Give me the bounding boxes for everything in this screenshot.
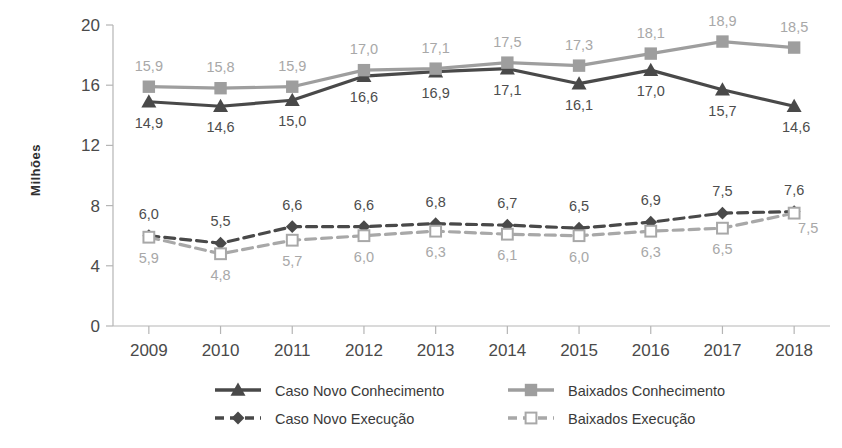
series-marker	[573, 59, 585, 71]
data-label: 18,5	[780, 19, 808, 35]
data-labels-series-3: 6,05,56,66,66,86,76,56,97,57,6	[139, 182, 804, 230]
x-axis-tick-label: 2017	[704, 341, 742, 360]
data-label: 7,5	[798, 220, 818, 236]
data-label: 14,6	[782, 119, 810, 135]
series-marker	[429, 62, 441, 74]
data-label: 18,9	[708, 13, 736, 29]
data-label: 6,0	[354, 249, 374, 265]
series-marker	[789, 208, 800, 219]
series-line	[149, 212, 794, 244]
series-marker	[645, 226, 656, 237]
data-label: 6,1	[497, 247, 517, 263]
data-label: 5,5	[210, 213, 230, 229]
data-label: 5,7	[282, 253, 302, 269]
series-marker	[358, 64, 370, 76]
data-label: 17,5	[493, 34, 521, 50]
legend-label: Caso Novo Conhecimento	[275, 383, 444, 399]
data-label: 5,9	[139, 250, 159, 266]
series-marker	[643, 63, 658, 76]
data-label: 17,1	[422, 40, 450, 56]
series-marker	[215, 248, 226, 259]
series-marker	[287, 235, 298, 246]
legend-marker	[232, 412, 245, 425]
data-label: 15,9	[135, 58, 163, 74]
x-axis-tick-labels: 2009201020112012201320142015201620172018	[130, 341, 813, 360]
legend-marker	[525, 384, 537, 396]
data-label: 17,0	[637, 83, 665, 99]
legend-item[interactable]: Baixados Execução	[508, 411, 695, 427]
data-label: 6,6	[354, 197, 374, 213]
data-label: 16,1	[565, 97, 593, 113]
y-axis-tick-label: 8	[91, 197, 100, 216]
data-label: 15,9	[278, 58, 306, 74]
data-label: 15,0	[278, 113, 306, 129]
x-axis-tick-label: 2009	[130, 341, 168, 360]
data-label: 17,1	[493, 82, 521, 98]
y-axis-ticks	[106, 25, 113, 326]
series-marker	[788, 41, 800, 53]
series-marker	[717, 223, 728, 234]
series-marker	[359, 230, 370, 241]
data-label: 7,6	[784, 182, 804, 198]
series-marker	[501, 56, 513, 68]
series-marker	[574, 230, 585, 241]
data-label: 14,6	[206, 119, 234, 135]
data-label: 17,3	[565, 37, 593, 53]
legend-marker	[526, 413, 537, 424]
data-label: 6,9	[641, 192, 661, 208]
x-axis-tick-label: 2018	[775, 341, 813, 360]
data-label: 15,8	[206, 59, 234, 75]
series-marker	[645, 47, 657, 59]
x-axis-ticks	[149, 326, 794, 334]
data-label: 4,8	[210, 267, 230, 283]
data-label: 6,0	[569, 249, 589, 265]
data-label: 14,9	[135, 115, 163, 131]
y-axis-tick-label: 16	[81, 76, 100, 95]
data-label: 6,8	[426, 194, 446, 210]
x-axis-tick-label: 2016	[632, 341, 670, 360]
legend-item[interactable]: Caso Novo Conhecimento	[215, 383, 444, 399]
series-line	[149, 213, 794, 254]
data-label: 6,5	[569, 198, 589, 214]
x-axis-tick-label: 2013	[417, 341, 455, 360]
data-label: 6,5	[712, 241, 732, 257]
series-marker	[286, 81, 298, 93]
series-marker	[143, 232, 154, 243]
line-chart: Milhões 048121620 2009201020112012201320…	[0, 0, 842, 448]
data-label: 16,6	[350, 89, 378, 105]
series-marker	[502, 229, 513, 240]
legend-label: Baixados Execução	[568, 411, 695, 427]
y-axis-tick-label: 0	[91, 317, 100, 336]
data-label: 6,0	[139, 206, 159, 222]
y-axis-title: Milhões	[28, 144, 43, 196]
y-axis-tick-label: 12	[81, 136, 100, 155]
data-label: 16,9	[422, 85, 450, 101]
x-axis-tick-label: 2010	[202, 341, 240, 360]
data-label: 6,3	[641, 244, 661, 260]
data-label: 6,6	[282, 197, 302, 213]
series-layer	[141, 35, 801, 259]
data-label: 6,3	[426, 244, 446, 260]
series-marker	[716, 35, 728, 47]
legend-label: Caso Novo Execução	[275, 411, 414, 427]
data-label: 17,0	[350, 41, 378, 57]
chart-container: Milhões 048121620 2009201020112012201320…	[0, 0, 842, 448]
y-axis-tick-label: 4	[91, 257, 100, 276]
data-labels-layer: 14,914,615,016,616,917,116,117,015,714,6…	[135, 13, 819, 283]
legend-item[interactable]: Caso Novo Execução	[215, 411, 414, 427]
series-3	[142, 205, 800, 249]
x-axis-tick-label: 2011	[274, 341, 311, 360]
legend-item[interactable]: Baixados Conhecimento	[508, 383, 725, 399]
series-marker	[430, 226, 441, 237]
x-axis-tick-label: 2012	[345, 341, 383, 360]
x-axis-tick-label: 2014	[488, 341, 526, 360]
y-axis-tick-label: 20	[81, 16, 100, 35]
data-labels-series-1: 14,914,615,016,616,917,116,117,015,714,6	[135, 82, 811, 136]
series-marker	[214, 82, 226, 94]
legend-label: Baixados Conhecimento	[568, 383, 725, 399]
chart-legend: Caso Novo ConhecimentoBaixados Conhecime…	[215, 383, 725, 427]
data-label: 6,7	[497, 195, 517, 211]
data-label: 18,1	[637, 25, 665, 41]
y-axis-tick-labels: 048121620	[81, 16, 100, 336]
series-marker	[143, 81, 155, 93]
